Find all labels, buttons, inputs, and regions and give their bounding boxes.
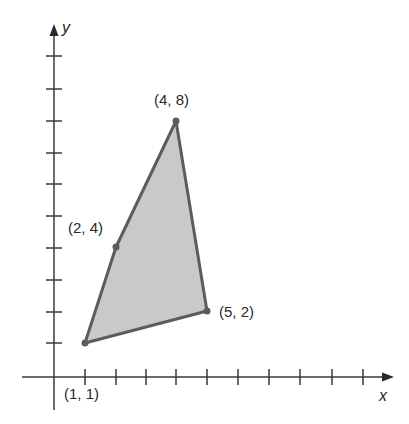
vertex-label-5-2: (5, 2): [219, 303, 254, 320]
y-axis-arrow-icon: [50, 24, 59, 36]
vertex-2-4: [113, 244, 120, 251]
vertex-label-2-4: (2, 4): [68, 219, 103, 236]
vertex-1-1: [82, 340, 89, 347]
vertex-4-8: [173, 118, 180, 125]
coordinate-plane-figure: y x (1, 1) (2, 4) (4, 8) (5, 2): [0, 0, 409, 424]
vertex-label-1-1: (1, 1): [64, 385, 99, 402]
plot-svg: [0, 0, 409, 424]
shaded-polygon: [85, 121, 207, 343]
x-axis-label: x: [379, 387, 387, 405]
vertex-label-4-8: (4, 8): [154, 91, 189, 108]
x-axis-arrow-icon: [382, 373, 394, 382]
vertex-5-2: [204, 308, 211, 315]
y-axis-label: y: [62, 19, 70, 37]
